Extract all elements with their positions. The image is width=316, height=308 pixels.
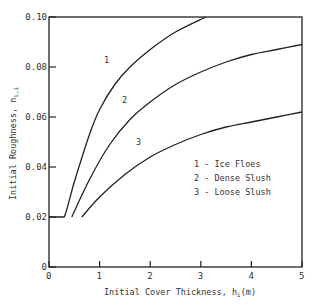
- x-axis-label: Initial Cover Thickness, hi(m): [104, 287, 256, 298]
- x-tick-label: 3: [198, 271, 203, 281]
- y-tick-label: 0.02: [25, 212, 47, 222]
- y-tick-label: 0.04: [25, 162, 47, 172]
- chart-figure: 01234500.020.040.060.080.10 1 2 3 1 - Ic…: [0, 0, 316, 308]
- y-tick-label: 0: [42, 262, 47, 272]
- x-tick-label: 4: [248, 271, 253, 281]
- curve-1: [49, 17, 206, 217]
- curve-label-3: 3: [136, 137, 141, 147]
- legend-item-1: 1 - Ice Floes: [194, 159, 261, 169]
- y-tick-label: 0.08: [25, 62, 47, 72]
- curve-label-2: 2: [122, 95, 127, 105]
- y-tick-label: 0.06: [25, 112, 47, 122]
- curve-3: [82, 112, 302, 217]
- y-tick-label: 0.10: [25, 12, 47, 22]
- x-tick-label: 1: [97, 271, 102, 281]
- y-axis-label: Initial Roughness, ni,i: [8, 86, 19, 200]
- legend-item-3: 3 - Loose Slush: [194, 187, 271, 197]
- x-tick-label: 2: [147, 271, 152, 281]
- x-tick-label: 5: [299, 271, 304, 281]
- chart-canvas: 01234500.020.040.060.080.10 1 2 3 1 - Ic…: [0, 0, 316, 308]
- curve-label-1: 1: [104, 55, 109, 65]
- legend-item-2: 2 - Dense Slush: [194, 173, 271, 183]
- x-tick-label: 0: [46, 271, 51, 281]
